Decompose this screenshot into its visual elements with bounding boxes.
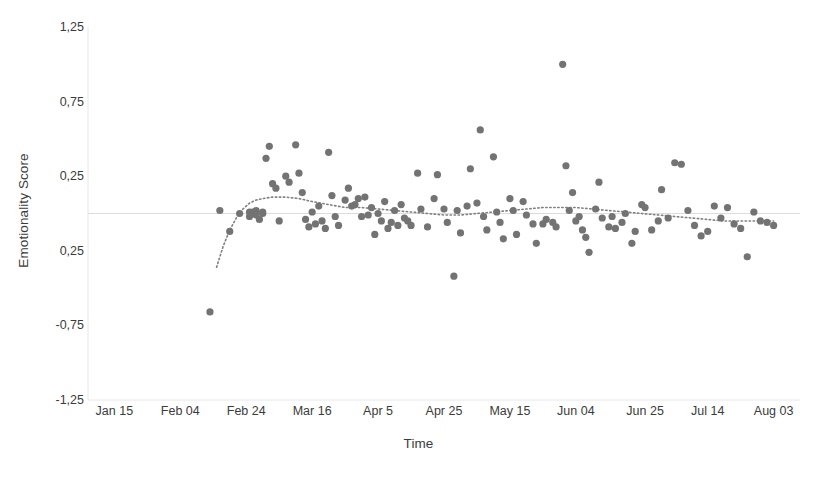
data-point [585, 249, 592, 256]
data-point [579, 226, 586, 233]
data-point [473, 199, 480, 206]
data-point [569, 189, 576, 196]
data-point [757, 217, 764, 224]
data-point [312, 220, 319, 227]
x-axis-title: Time [0, 436, 837, 451]
data-point [454, 207, 461, 214]
data-point [671, 159, 678, 166]
data-point [513, 231, 520, 238]
data-point [490, 153, 497, 160]
data-point [717, 214, 724, 221]
data-point [371, 231, 378, 238]
data-point [691, 222, 698, 229]
data-point [506, 195, 513, 202]
data-point [612, 225, 619, 232]
data-point [276, 217, 283, 224]
data-point [483, 226, 490, 233]
data-point [622, 210, 629, 217]
data-point [618, 219, 625, 226]
data-point [216, 207, 223, 214]
data-point [374, 210, 381, 217]
data-point [632, 228, 639, 235]
data-point [744, 253, 751, 260]
data-point [737, 225, 744, 232]
x-axis-tick-label: Apr 25 [426, 404, 463, 418]
data-point [628, 240, 635, 247]
x-axis-title-label: Time [404, 436, 434, 451]
data-point [599, 214, 606, 221]
data-point [206, 308, 213, 315]
data-point [345, 185, 352, 192]
data-point [381, 198, 388, 205]
data-point [523, 211, 530, 218]
data-point [493, 208, 500, 215]
data-point [562, 162, 569, 169]
data-point [358, 213, 365, 220]
data-point [226, 228, 233, 235]
data-point [407, 222, 414, 229]
data-point [477, 126, 484, 133]
data-point [510, 207, 517, 214]
data-point [440, 205, 447, 212]
data-point [576, 213, 583, 220]
x-axis-tick-label: Mar 16 [293, 404, 332, 418]
data-point [605, 223, 612, 230]
data-point [272, 185, 279, 192]
data-point [325, 149, 332, 156]
x-axis-tick-label: Jan 15 [96, 404, 134, 418]
x-axis-tick-label: Apr 5 [363, 404, 393, 418]
data-point [730, 220, 737, 227]
data-point [355, 195, 362, 202]
data-point [450, 273, 457, 280]
data-point [684, 207, 691, 214]
data-point [463, 202, 470, 209]
x-axis-tick-label: Feb 24 [227, 404, 266, 418]
data-point [500, 235, 507, 242]
data-point [378, 217, 385, 224]
data-point [609, 213, 616, 220]
data-point [678, 161, 685, 168]
data-point [457, 229, 464, 236]
data-point [365, 211, 372, 218]
data-point [285, 179, 292, 186]
x-axis-tick-label: Feb 04 [161, 404, 200, 418]
data-point [292, 141, 299, 148]
data-point [318, 217, 325, 224]
data-point [299, 189, 306, 196]
data-point [236, 210, 243, 217]
data-point [641, 204, 648, 211]
x-axis-tick-label: Aug 03 [754, 404, 794, 418]
data-point [342, 196, 349, 203]
data-point [394, 222, 401, 229]
scatter-chart: Emotionality Score 1,250,750,250,25-0,75… [0, 0, 837, 483]
data-point [724, 204, 731, 211]
data-point [648, 226, 655, 233]
data-point [253, 207, 260, 214]
data-point [434, 171, 441, 178]
data-point [431, 195, 438, 202]
data-point [328, 192, 335, 199]
data-point [665, 214, 672, 221]
x-axis-tick-label: May 15 [489, 404, 530, 418]
trendline [217, 197, 774, 267]
data-point [417, 205, 424, 212]
data-point [750, 208, 757, 215]
data-point [595, 179, 602, 186]
data-point [480, 213, 487, 220]
data-point [332, 213, 339, 220]
data-point [309, 208, 316, 215]
trendline-path [217, 197, 774, 267]
data-point [398, 201, 405, 208]
data-point [305, 223, 312, 230]
data-point [559, 61, 566, 68]
data-point [315, 202, 322, 209]
data-point [543, 216, 550, 223]
data-point [698, 232, 705, 239]
data-point [302, 216, 309, 223]
data-point [552, 223, 559, 230]
data-point [520, 198, 527, 205]
data-point [533, 240, 540, 247]
data-point [467, 165, 474, 172]
data-point [295, 170, 302, 177]
data-point [763, 219, 770, 226]
